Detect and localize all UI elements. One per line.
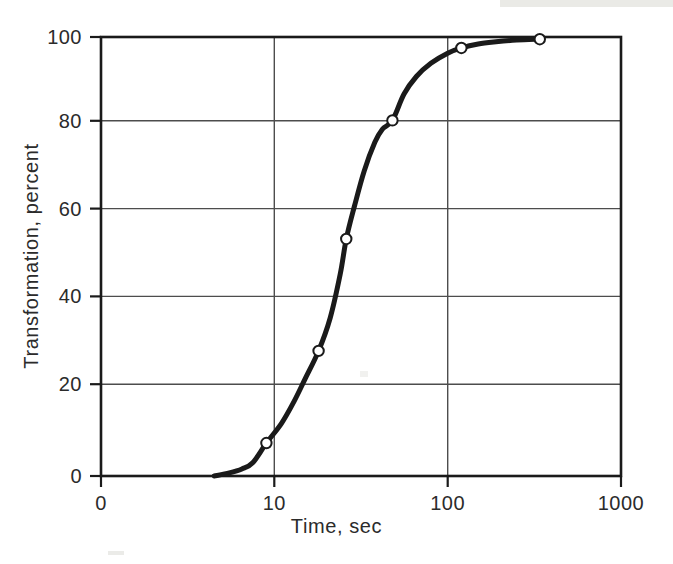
grid-lines [101, 37, 621, 476]
y-axis-ticks [90, 37, 101, 476]
plot-area [0, 0, 673, 564]
data-point-marker [341, 234, 351, 244]
axis-frame [101, 37, 621, 476]
x-tick-label-1000: 1000 [598, 492, 645, 515]
x-tick-label-100: 100 [430, 492, 465, 515]
data-point-marker [456, 43, 466, 53]
data-point-marker [387, 115, 397, 125]
data-point-marker [535, 34, 545, 44]
y-axis-title: Transformation, percent [20, 143, 43, 368]
y-axis-title-wrapper: Transformation, percent [14, 0, 48, 564]
data-point-marker [261, 438, 271, 448]
series-line-0 [214, 39, 540, 476]
x-axis-title: Time, sec [0, 515, 673, 538]
data-series-layer [214, 34, 545, 476]
x-tick-label-10: 10 [263, 492, 286, 515]
chart-figure: 100 80 60 40 20 0 0 10 100 1000 Time, se… [0, 0, 673, 564]
x-axis-ticks [101, 476, 621, 487]
data-point-marker [313, 346, 323, 356]
x-tick-label-0: 0 [95, 492, 107, 515]
